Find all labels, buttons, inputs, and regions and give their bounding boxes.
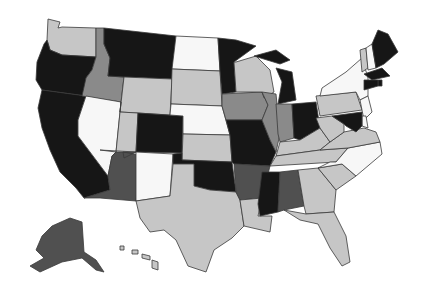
state-hi[interactable]: Hawaii [120, 246, 158, 270]
state-wy[interactable]: Wyoming [120, 77, 172, 115]
state-in[interactable]: Indiana [276, 104, 294, 142]
state-ak[interactable]: Alaska [30, 218, 104, 272]
state-sd[interactable]: South Dakota [171, 69, 222, 106]
state-ct[interactable]: Connecticut [364, 80, 378, 90]
state-me[interactable]: Maine [372, 30, 398, 68]
state-nd[interactable]: North Dakota [172, 36, 220, 71]
state-wi[interactable]: Wisconsin [234, 56, 274, 98]
state-co[interactable]: Colorado [136, 113, 183, 153]
state-fl[interactable]: Florida [284, 210, 350, 266]
state-ny[interactable]: New York [320, 58, 368, 100]
state-ms[interactable]: Mississippi [258, 172, 280, 216]
state-nm[interactable]: New Mexico [136, 152, 173, 201]
state-mt[interactable]: Montana [104, 28, 176, 79]
state-ri[interactable]: Rhode Island [378, 80, 382, 86]
state-wa[interactable]: Washington [47, 19, 96, 57]
state-de[interactable]: Delaware [362, 116, 368, 128]
state-ia[interactable]: Iowa [222, 92, 268, 120]
state-ks[interactable]: Kansas [182, 134, 232, 162]
us-choropleth-map: WashingtonOregonCaliforniaIdahoNevadaMon… [0, 0, 443, 293]
